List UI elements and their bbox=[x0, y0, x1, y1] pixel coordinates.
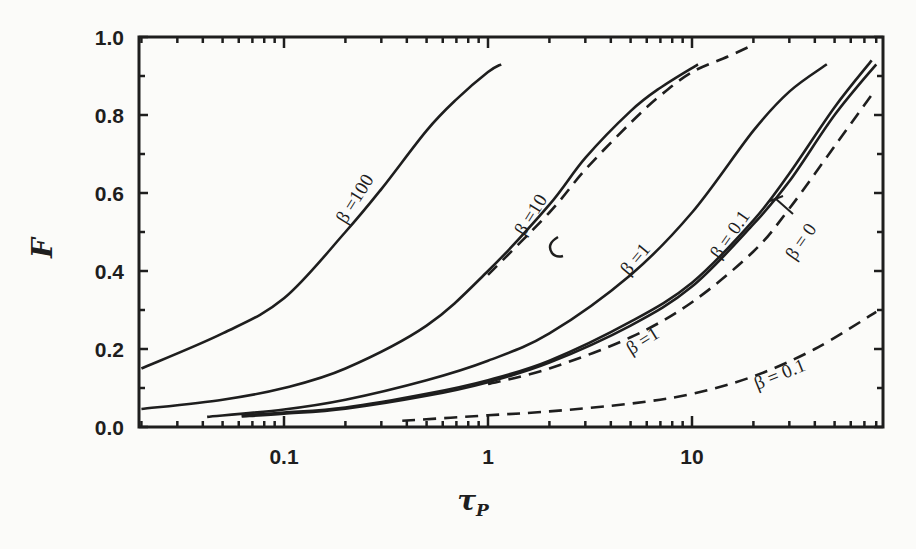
y-axis-title: F bbox=[26, 236, 59, 259]
curve-label: β = 0 bbox=[781, 219, 821, 263]
y-tick-label: 0.8 bbox=[95, 104, 125, 127]
x-axis-title: τP bbox=[457, 484, 490, 520]
y-tick-label: 0.2 bbox=[95, 338, 124, 361]
x-tick-label: 1 bbox=[482, 445, 494, 468]
beta10-arc-marker bbox=[550, 237, 563, 257]
chart: β =100β =10β =1β = 0.1β = 0β =1β = 0.1 0… bbox=[0, 0, 916, 549]
y-tick-label: 0.6 bbox=[95, 182, 124, 205]
y-tick-label: 1.0 bbox=[95, 26, 124, 49]
x-tick-label: 0.1 bbox=[269, 445, 299, 468]
curve--100 bbox=[141, 64, 501, 368]
curve-label: β =1 bbox=[616, 239, 654, 279]
curve-label: β = 0.1 bbox=[706, 206, 754, 262]
x-tick-label: 10 bbox=[680, 445, 703, 468]
curve-label: β = 0.1 bbox=[751, 354, 809, 394]
y-tick-label: 0.4 bbox=[95, 260, 125, 283]
y-tick-label: 0.0 bbox=[95, 416, 124, 439]
curve-label: β =100 bbox=[331, 170, 377, 227]
curve-label: β =10 bbox=[510, 190, 551, 239]
curves bbox=[141, 45, 876, 421]
curve--10 bbox=[141, 64, 698, 409]
